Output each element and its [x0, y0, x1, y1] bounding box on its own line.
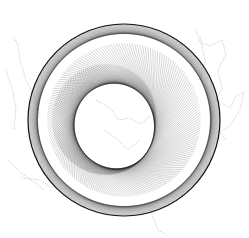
string-art-canvas	[0, 0, 249, 238]
spiral-string-art	[28, 24, 220, 216]
faint-map-outline	[6, 30, 244, 236]
